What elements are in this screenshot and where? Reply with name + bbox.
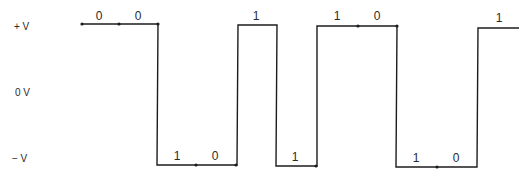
- boundary-dot: [156, 22, 159, 25]
- boundary-dot: [314, 164, 317, 167]
- bit-label: 1: [334, 9, 341, 23]
- waveform-canvas: + V0 V− V 00101110101: [0, 0, 529, 177]
- boundary-dot: [356, 24, 359, 27]
- voltage-axis-labels: + V0 V− V: [12, 21, 30, 164]
- boundary-dot: [435, 165, 438, 168]
- bit-label: 1: [174, 149, 181, 163]
- bit-label: 1: [413, 151, 420, 165]
- bit-label: 0: [135, 9, 142, 23]
- bit-label: 1: [253, 9, 260, 23]
- bit-label: 0: [212, 149, 219, 163]
- axis-label-low: − V: [12, 153, 28, 164]
- bit-boundary-markers: [80, 22, 438, 168]
- bit-label: 1: [292, 150, 299, 164]
- boundary-dot: [395, 24, 398, 27]
- waveform-diagram: + V0 V− V 00101110101: [0, 0, 529, 177]
- bit-label: 0: [96, 9, 103, 23]
- boundary-dot: [80, 22, 83, 25]
- bit-label: 0: [453, 151, 460, 165]
- axis-label-zero: 0 V: [15, 87, 30, 98]
- boundary-dot: [234, 163, 237, 166]
- signal-waveform: [82, 24, 519, 167]
- axis-label-high: + V: [14, 21, 30, 32]
- bit-label: 1: [496, 11, 503, 25]
- boundary-dot: [117, 22, 120, 25]
- boundary-dot: [194, 163, 197, 166]
- bit-label: 0: [374, 9, 381, 23]
